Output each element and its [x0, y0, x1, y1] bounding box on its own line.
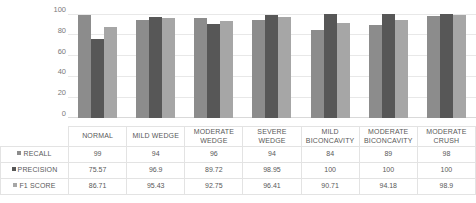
y-axis: 100 80 60 40 20 0: [36, 10, 66, 118]
table-cell: 94.18: [359, 179, 417, 195]
table-header-cell: MODERATE WEDGE: [185, 127, 243, 147]
table-cell: 96: [185, 147, 243, 163]
table-cell: 84: [301, 147, 359, 163]
bar-f1-score: [162, 18, 175, 117]
legend-item-precision: PRECISION: [1, 163, 69, 179]
chart-figure: 100 80 60 40 20 0 NORMAL MILD WEDGE M: [0, 0, 476, 203]
bar-f1-score: [395, 20, 408, 118]
bar-group: [418, 14, 476, 118]
bar-recall: [252, 20, 265, 118]
table-cell: 89: [359, 147, 417, 163]
table-header-cell: MODERATE CRUSH: [417, 127, 475, 147]
table-row: PRECISION 75.57 96.9 89.72 98.95 100 100…: [1, 163, 476, 179]
legend-swatch-icon: [17, 151, 21, 155]
bar-f1-score: [337, 23, 350, 117]
table-cell: 96.41: [243, 179, 301, 195]
plot-area: 100 80 60 40 20 0: [0, 0, 476, 128]
table-cell: 95.43: [127, 179, 185, 195]
table-cell: 98.9: [417, 179, 475, 195]
bar-precision: [382, 14, 395, 118]
legend-label: F1 SCORE: [19, 182, 55, 189]
table-cell: 75.57: [69, 163, 127, 179]
table-cell: 100: [417, 163, 475, 179]
bar-f1-score: [104, 27, 117, 117]
bar-precision: [207, 24, 220, 117]
bar-precision: [91, 39, 104, 118]
table-cell: 98.95: [243, 163, 301, 179]
table-header-cell: SEVERE WEDGE: [243, 127, 301, 147]
bar-group: [185, 14, 243, 118]
bar-precision: [440, 14, 453, 118]
y-tick-20: 20: [58, 89, 66, 97]
bar-group: [126, 14, 184, 118]
table-row: RECALL 99 94 96 94 84 89 98: [1, 147, 476, 163]
bar-groups: [68, 14, 476, 118]
y-tick-0: 0: [62, 110, 66, 118]
table-cell: 100: [359, 163, 417, 179]
table-header-cell: MODERATE BICONCAVITY: [359, 127, 417, 147]
bar-precision: [149, 17, 162, 118]
legend-item-recall: RECALL: [1, 147, 69, 163]
bar-recall: [78, 15, 91, 118]
bar-recall: [311, 30, 324, 117]
table-cell: 98: [417, 147, 475, 163]
bar-f1-score: [220, 21, 233, 117]
table-cell: 86.71: [69, 179, 127, 195]
bar-group: [301, 14, 359, 118]
table-header-row: NORMAL MILD WEDGE MODERATE WEDGE SEVERE …: [1, 127, 476, 147]
y-tick-100: 100: [53, 6, 66, 14]
bar-precision: [265, 15, 278, 118]
table-header-cell: MILD BICONCAVITY: [301, 127, 359, 147]
legend-swatch-icon: [12, 167, 16, 171]
bar-group: [359, 14, 417, 118]
table-cell: 94: [243, 147, 301, 163]
legend-item-f1-score: F1 SCORE: [1, 179, 69, 195]
table-cell: 96.9: [127, 163, 185, 179]
table-cell: 89.72: [185, 163, 243, 179]
table-cell: 100: [301, 163, 359, 179]
y-tick-40: 40: [58, 68, 66, 76]
y-tick-80: 80: [58, 27, 66, 35]
legend-swatch-icon: [13, 183, 17, 187]
table-cell: 90.71: [301, 179, 359, 195]
bar-recall: [194, 18, 207, 118]
bar-precision: [324, 14, 337, 118]
bar-recall: [427, 16, 440, 118]
legend-label: PRECISION: [18, 166, 58, 173]
legend-label: RECALL: [23, 150, 51, 157]
table-corner-cell: [1, 127, 69, 147]
table-header-cell: MILD WEDGE: [127, 127, 185, 147]
y-tick-60: 60: [58, 48, 66, 56]
bar-group: [243, 14, 301, 118]
table-row: F1 SCORE 86.71 95.43 92.75 96.41 90.71 9…: [1, 179, 476, 195]
table-cell: 99: [69, 147, 127, 163]
table-header-cell: NORMAL: [69, 127, 127, 147]
table-cell: 94: [127, 147, 185, 163]
bar-f1-score: [278, 17, 291, 117]
bar-f1-score: [453, 15, 466, 118]
bar-group: [68, 14, 126, 118]
bar-recall: [136, 20, 149, 118]
bar-recall: [369, 25, 382, 118]
table-cell: 92.75: [185, 179, 243, 195]
data-table: NORMAL MILD WEDGE MODERATE WEDGE SEVERE …: [0, 126, 476, 195]
